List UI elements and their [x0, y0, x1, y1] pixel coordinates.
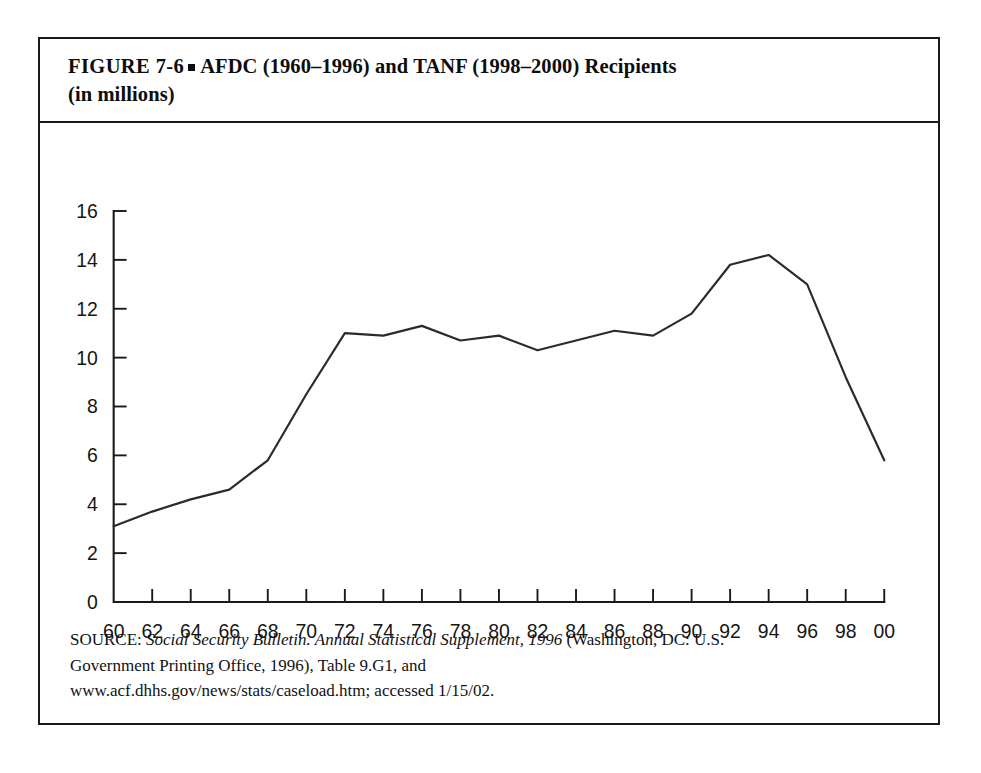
y-axis-tick-label: 4	[87, 493, 98, 515]
y-axis-tick-label: 2	[87, 542, 98, 564]
figure-frame: FIGURE 7-6AFDC (1960–1996) and TANF (199…	[38, 37, 940, 725]
square-bullet-icon	[188, 64, 195, 71]
source-italic-title: Social Security Bulletin. Annual Statist…	[146, 630, 562, 649]
y-axis-tick-label: 12	[76, 298, 98, 320]
figure-title: FIGURE 7-6AFDC (1960–1996) and TANF (199…	[68, 52, 910, 108]
source-line-1-tail: (Washington, DC: U.S.	[566, 630, 724, 649]
x-axis-ticks	[152, 589, 884, 602]
y-axis-tick-label: 0	[87, 591, 98, 613]
source-note: SOURCE: Social Security Bulletin. Annual…	[40, 619, 938, 723]
y-axis-tick-label: 10	[76, 347, 98, 369]
y-axis-tick-label: 16	[76, 200, 98, 222]
y-axis-ticks	[114, 211, 127, 553]
source-line-2: Government Printing Office, 1996), Table…	[70, 653, 908, 679]
figure-caption-block: FIGURE 7-6AFDC (1960–1996) and TANF (199…	[40, 39, 938, 123]
source-line-1: SOURCE: Social Security Bulletin. Annual…	[70, 627, 908, 653]
source-line-3: www.acf.dhhs.gov/news/stats/caseload.htm…	[70, 678, 908, 704]
y-axis-tick-label: 8	[87, 395, 98, 417]
figure-number-label: FIGURE 7-6	[68, 55, 184, 77]
y-axis-tick-label: 14	[76, 249, 98, 271]
recipients-series-line	[114, 255, 885, 526]
line-chart-svg: 0246810121416 60626466687072747678808284…	[40, 123, 938, 643]
chart-axes	[114, 211, 885, 602]
chart-plot-area: 0246810121416 60626466687072747678808284…	[40, 123, 938, 643]
figure-title-main: AFDC (1960–1996) and TANF (1998–2000) Re…	[200, 55, 676, 77]
y-axis-tick-labels: 0246810121416	[76, 200, 98, 613]
source-prefix: SOURCE:	[70, 630, 142, 649]
y-axis-tick-label: 6	[87, 444, 98, 466]
figure-title-subline: (in millions)	[68, 83, 175, 105]
